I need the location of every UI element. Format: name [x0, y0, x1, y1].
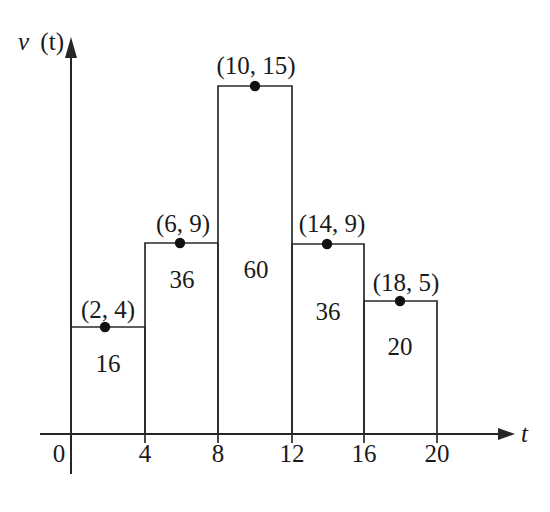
- x-tick-label-8: 8: [212, 440, 225, 467]
- y-axis-label-variable: v: [18, 28, 30, 55]
- x-tick-label-16: 16: [352, 440, 377, 467]
- midpoint-dot-2: [250, 81, 260, 91]
- point-labels-group: (2, 4)(6, 9)(10, 15)(14, 9)(18, 5): [81, 52, 439, 324]
- y-axis-label-argument: (t): [40, 28, 64, 56]
- x-tick-label-12: 12: [280, 440, 305, 467]
- point-label-2: (10, 15): [216, 52, 295, 80]
- area-label-2: 60: [244, 256, 269, 283]
- y-axis-arrow-icon: [65, 37, 77, 58]
- bar-0: [71, 327, 145, 434]
- x-tick-labels-group: 48121620: [139, 440, 450, 467]
- velocity-bar-chart-figure: (2, 4)(6, 9)(10, 15)(14, 9)(18, 5) 16366…: [0, 0, 550, 512]
- point-label-1: (6, 9): [156, 210, 210, 238]
- x-axis-arrow-icon: [498, 428, 515, 440]
- axes-group: [40, 37, 515, 474]
- area-label-4: 20: [388, 333, 413, 360]
- point-label-0: (2, 4): [81, 296, 135, 324]
- midpoint-dot-3: [322, 239, 332, 249]
- point-label-3: (14, 9): [299, 210, 366, 238]
- x-axis-label: t: [521, 420, 529, 447]
- point-label-4: (18, 5): [373, 269, 440, 297]
- x-tick-label-4: 4: [139, 440, 152, 467]
- midpoint-dot-0: [100, 322, 110, 332]
- midpoint-dot-1: [175, 238, 185, 248]
- y-axis-label: v (t): [18, 28, 64, 56]
- origin-label: 0: [53, 440, 66, 467]
- chart-canvas: (2, 4)(6, 9)(10, 15)(14, 9)(18, 5) 16366…: [0, 0, 550, 512]
- area-labels-group: 1636603620: [96, 256, 413, 377]
- bar-3: [292, 244, 364, 434]
- midpoint-dot-4: [395, 296, 405, 306]
- x-tick-label-20: 20: [425, 440, 450, 467]
- area-label-3: 36: [316, 298, 341, 325]
- bar-4: [364, 301, 437, 434]
- area-label-0: 16: [96, 350, 121, 377]
- area-label-1: 36: [170, 266, 195, 293]
